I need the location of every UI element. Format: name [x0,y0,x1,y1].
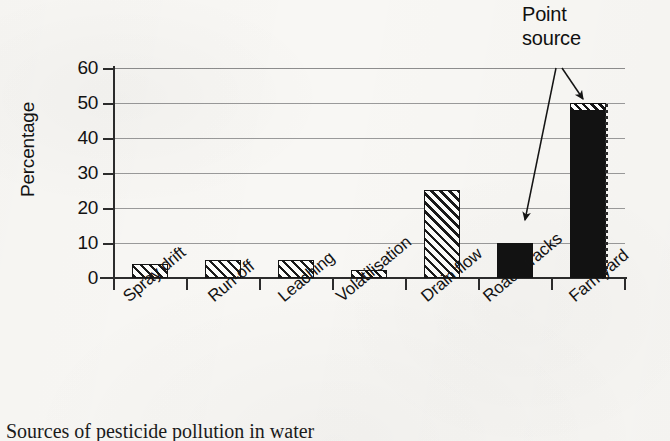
y-tick-label-10: 10 [42,233,98,252]
y-tick-label-10-text: 10 [52,233,98,252]
y-tick-label-30-text: 30 [52,163,98,182]
bar-chart: 60 50 40 30 20 10 0 Percentage [0,0,670,441]
arrow-to-roads-tracks [525,68,556,220]
annotation-line-1: Point [522,2,662,26]
y-tick-label-0-text: 0 [52,268,98,287]
y-tick-mark-10 [103,243,115,245]
y-tick-label-20: 20 [42,198,98,217]
scanned-figure-page: 60 50 40 30 20 10 0 Percentage [0,0,670,441]
y-tick-label-60-text: 60 [52,58,98,77]
arrow-to-farmyard [562,68,583,99]
x-label-spray-drift: Spray drift [120,244,189,305]
y-tick-mark-50 [103,103,115,105]
gridline-40 [113,138,625,139]
bar-farmyard[interactable] [570,103,606,278]
annotation-point-source: Point source [522,2,662,50]
y-tick-label-50: 50 [42,93,98,112]
y-tick-label-60: 60 [42,58,98,77]
x-label-roads-tracks: Roads/tracks [480,230,565,305]
y-tick-mark-40 [103,138,115,140]
gridline-50 [113,103,625,104]
x-tick-mark-2 [259,279,261,290]
x-tick-mark-4 [405,279,407,290]
annotation-line-2: source [522,26,662,50]
y-tick-label-0: 0 [42,268,98,287]
y-tick-mark-60 [103,68,115,70]
y-tick-label-30: 30 [42,163,98,182]
x-tick-mark-7 [624,279,626,290]
y-tick-mark-20 [103,208,115,210]
y-tick-mark-30 [103,173,115,175]
x-tick-mark-6 [551,279,553,290]
y-tick-label-50-text: 50 [52,93,98,112]
y-tick-label-40-text: 40 [52,128,98,147]
gridline-60 [113,68,625,69]
x-tick-mark-5 [478,279,480,290]
x-tick-mark-0 [113,279,115,290]
gridline-30 [113,173,625,174]
y-tick-label-40: 40 [42,128,98,147]
y-axis-title: Percentage [18,65,37,235]
gridline-20 [113,208,625,209]
y-tick-label-20-text: 20 [52,198,98,217]
x-tick-mark-1 [186,279,188,290]
figure-caption: Sources of pesticide pollution in water [6,420,314,441]
